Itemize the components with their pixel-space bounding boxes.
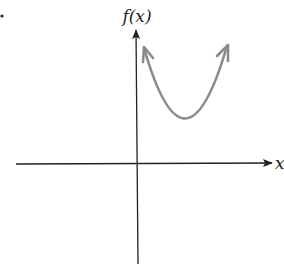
y-axis-label: f(x) <box>120 6 151 26</box>
parabola-curve <box>143 45 228 119</box>
graph: f(x) x <box>0 0 284 264</box>
bullet-marker <box>0 14 3 17</box>
x-axis <box>16 163 272 164</box>
x-axis-label: x <box>275 153 284 173</box>
y-axis <box>136 30 138 264</box>
